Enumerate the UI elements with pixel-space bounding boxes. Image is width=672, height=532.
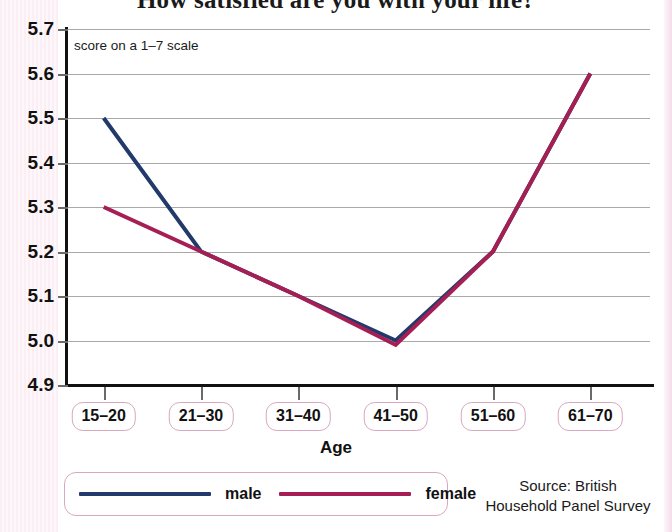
chart-title: How satisfied are you with your life? [0,0,672,14]
x-axis-tick [396,387,398,400]
x-axis-category-2: 21–30 [169,402,234,431]
legend-item-male: male [79,485,261,503]
line-female [104,74,591,345]
chart-legend: male female [64,472,448,516]
x-axis-category-5: 51–60 [461,402,526,431]
legend-label-male: male [225,485,261,503]
x-axis-category-1: 15–20 [71,402,136,431]
x-axis-tick [590,387,592,400]
series-lines [66,29,650,385]
x-axis-tick [493,387,495,400]
x-axis-category-6: 61–70 [558,402,623,431]
y-axis-label: 5.3 [0,196,54,218]
source-line-1: Source: British [470,476,666,496]
source-line-2: Household Panel Survey [470,496,666,516]
x-axis-tick [201,387,203,400]
legend-swatch-female [279,492,411,496]
x-axis-tick [298,387,300,400]
y-axis-label: 5.7 [0,18,54,40]
x-axis-title: Age [0,438,672,458]
y-axis-label: 4.9 [0,374,54,396]
legend-swatch-male [79,492,211,496]
y-axis-label: 5.5 [0,107,54,129]
x-axis-category-4: 41–50 [363,402,428,431]
y-axis-label: 5.0 [0,330,54,352]
legend-item-female: female [279,485,476,503]
y-axis-label: 5.6 [0,63,54,85]
y-axis-tick [58,385,68,387]
y-axis-label: 5.4 [0,152,54,174]
y-axis-label: 5.1 [0,285,54,307]
x-axis-tick [104,387,106,400]
source-note: Source: British Household Panel Survey [470,476,666,516]
legend-label-female: female [425,485,476,503]
gridline [66,385,650,386]
y-axis-label: 5.2 [0,241,54,263]
x-axis-category-3: 31–40 [266,402,331,431]
